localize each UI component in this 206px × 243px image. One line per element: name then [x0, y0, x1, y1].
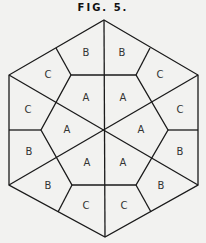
label-a: A	[120, 157, 127, 168]
label-a: A	[84, 157, 91, 168]
label-c: C	[177, 104, 184, 115]
label-b: B	[45, 180, 52, 191]
label-b: B	[83, 47, 90, 58]
label-a: A	[120, 92, 127, 103]
label-a: A	[138, 124, 145, 135]
label-c: C	[121, 200, 128, 211]
label-b: B	[177, 146, 184, 157]
hexagon-diagram: B B C C A A C C A A B B A A B B C C	[0, 0, 206, 243]
label-b: B	[26, 146, 33, 157]
label-b: B	[158, 180, 165, 191]
label-c: C	[45, 69, 52, 80]
label-c: C	[157, 69, 164, 80]
label-c: C	[83, 200, 90, 211]
label-a: A	[83, 92, 90, 103]
label-a: A	[64, 124, 71, 135]
label-c: C	[25, 104, 32, 115]
label-b: B	[119, 47, 126, 58]
